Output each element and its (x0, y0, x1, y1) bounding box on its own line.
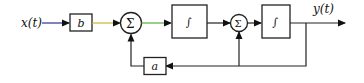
integrator-2-block: ∫ (262, 5, 290, 38)
block-diagram: x(t) b Σ ∫ Σ ∫ y(t) a (0, 0, 364, 83)
a-to-sum1-wire (131, 35, 144, 67)
sum2-symbol: Σ (235, 18, 242, 29)
summing-junction-2: Σ (231, 15, 248, 32)
input-label: x(t) (21, 16, 42, 30)
summing-junction-1: Σ (121, 13, 142, 34)
gain-a-block: a (144, 58, 166, 75)
integrator2-symbol: ∫ (273, 16, 279, 29)
gain-b-block: b (70, 14, 92, 31)
output-label: y(t) (312, 2, 334, 16)
integrator1-symbol: ∫ (186, 16, 192, 29)
integrator-1-block: ∫ (172, 5, 207, 38)
sum1-symbol: Σ (126, 17, 134, 31)
gain-b-label: b (78, 17, 85, 30)
gain-a-label: a (152, 60, 159, 73)
